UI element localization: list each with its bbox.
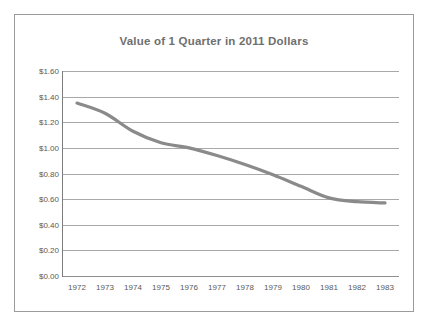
x-tick-label: 1975 — [152, 283, 170, 292]
y-tick-label: $0.40 — [15, 220, 59, 229]
chart-frame: Value of 1 Quarter in 2011 Dollars $0.00… — [14, 14, 414, 312]
plot-area — [63, 71, 399, 276]
y-tick-label: $1.20 — [15, 118, 59, 127]
y-tick-label: $0.80 — [15, 169, 59, 178]
x-tick-label: 1982 — [348, 283, 366, 292]
x-axis-tick-labels: 1972197319741975197619771978197919801981… — [63, 283, 399, 297]
line-series-svg — [63, 71, 399, 276]
x-tick-label: 1983 — [376, 283, 394, 292]
x-tick-label: 1974 — [124, 283, 142, 292]
y-tick-label: $1.40 — [15, 92, 59, 101]
y-axis-tick-labels: $0.00$0.20$0.40$0.60$0.80$1.00$1.20$1.40… — [15, 71, 59, 276]
x-tick-label: 1973 — [96, 283, 114, 292]
x-tick-label: 1981 — [320, 283, 338, 292]
x-tick-label: 1977 — [208, 283, 226, 292]
y-tick-label: $0.00 — [15, 272, 59, 281]
chart-page: Value of 1 Quarter in 2011 Dollars $0.00… — [0, 0, 428, 329]
y-tick-label: $1.00 — [15, 143, 59, 152]
chart-title: Value of 1 Quarter in 2011 Dollars — [15, 35, 413, 47]
x-tick-label: 1976 — [180, 283, 198, 292]
x-tick-label: 1980 — [292, 283, 310, 292]
gridline — [63, 276, 399, 277]
y-tick-label: $0.20 — [15, 246, 59, 255]
x-tick-label: 1978 — [236, 283, 254, 292]
x-tick-label: 1972 — [68, 283, 86, 292]
y-tick-label: $0.60 — [15, 195, 59, 204]
line-series-path — [77, 103, 385, 203]
x-tick-label: 1979 — [264, 283, 282, 292]
y-tick-label: $1.60 — [15, 67, 59, 76]
